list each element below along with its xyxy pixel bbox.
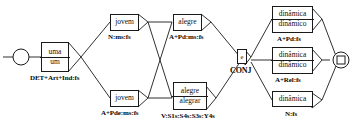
node-alegre-adj-label: A+Pd:ms:fs — [169, 33, 204, 41]
node-jovem-noun[interactable]: jovem — [110, 14, 139, 31]
node-dinamica-pd-word-0: dinâmica — [277, 10, 309, 19]
node-dinamica-pd-word-1: dinâmico — [271, 19, 314, 29]
node-alegre-verb-word-1: alegrar — [172, 96, 208, 106]
node-alegre-verb-word-0: alegre — [179, 87, 201, 96]
node-det[interactable]: uma um — [41, 42, 69, 72]
node-conj-label: CONJ — [230, 66, 251, 75]
node-alegre-adj-word-0: alegre — [176, 18, 198, 27]
node-det-word-1: um — [40, 57, 70, 67]
edge-det-to-jovem-noun — [81, 22, 110, 57]
box-tip-jovem-adj — [138, 90, 148, 107]
node-dinamica-noun-label: N:fs — [285, 110, 297, 118]
node-dinamica-pd-label: A+Pd:fs — [277, 35, 301, 43]
node-alegre-verb[interactable]: alegre alegrar — [173, 82, 207, 110]
node-dinamica-pd[interactable]: dinâmica dinâmico — [272, 6, 313, 33]
end-node-inner-square — [337, 56, 345, 64]
edge-conj-to-dinamica-pd — [251, 19, 272, 57]
node-dinamica-rel-label: A+Rel:fs — [275, 76, 301, 84]
node-jovem-adj[interactable]: jovem — [110, 90, 139, 107]
box-tip-jovem-noun — [138, 14, 148, 31]
diagram-canvas: uma um DET+Art+Ind:fs jovem N:ms:fs jove… — [0, 0, 357, 133]
edge-dinamicapd-to-end — [322, 19, 336, 56]
node-jovem-adj-label: A+Pde:ms:fs — [101, 109, 139, 117]
node-dinamica-rel[interactable]: dinâmica dinâmico — [272, 47, 313, 74]
node-det-label: DET+Art+Ind:fs — [30, 74, 79, 82]
start-node-circle — [13, 49, 29, 65]
edge-dinamicanoun-to-end — [322, 66, 336, 100]
edge-conj-to-dinamica-noun — [251, 62, 272, 100]
node-dinamica-rel-word-0: dinâmica — [277, 51, 309, 60]
node-alegre-adj[interactable]: alegre — [173, 14, 202, 31]
node-dinamica-noun-word-0: dinâmica — [277, 95, 309, 104]
box-tip-dinamica-noun — [312, 93, 322, 108]
node-jovem-adj-word-0: jovem — [113, 94, 136, 103]
node-jovem-noun-word-0: jovem — [113, 18, 136, 27]
node-conj-word-0: e — [241, 53, 244, 60]
edge-det-to-jovem-adj — [81, 57, 110, 98]
node-alegre-verb-label: V:S1s:S4s:S3s:Y4s — [161, 112, 215, 120]
node-dinamica-rel-word-1: dinâmico — [271, 60, 314, 70]
node-jovem-noun-label: N:ms:fs — [108, 33, 131, 41]
box-tip-alegre-adj — [201, 14, 211, 31]
node-dinamica-noun[interactable]: dinâmica — [272, 91, 313, 107]
node-conj[interactable]: e — [237, 49, 247, 64]
node-det-word-0: uma — [47, 48, 64, 57]
edge-alegreadj-to-conj — [211, 22, 240, 57]
